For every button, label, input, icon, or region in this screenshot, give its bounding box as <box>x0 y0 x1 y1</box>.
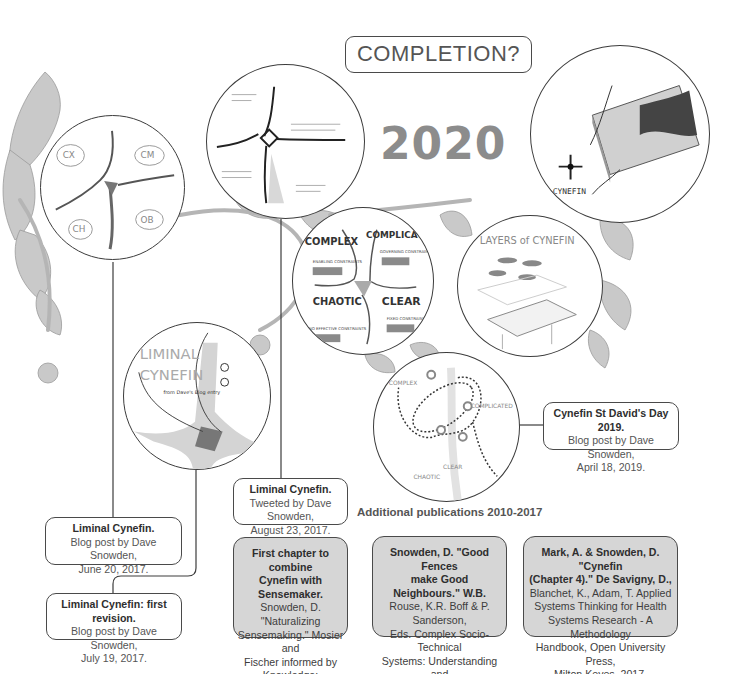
liminal-cynefin-sketch-circle: LIMINAL CYNEFIN from Dave's Blog entry <box>123 322 271 470</box>
year-2020-label: 2020 <box>380 118 490 169</box>
liminal-tweet-title: Liminal Cynefin. <box>237 483 344 497</box>
complex-label: COMPLEX <box>305 237 359 248</box>
layers-title: LAYERS of CYNEFIN <box>480 235 575 246</box>
publication-box-2010: First chapter to combine Cynefin with Se… <box>233 537 348 638</box>
liminal-word: LIMINAL <box>140 345 200 362</box>
cynefin-hand-sketch-circle <box>206 64 365 219</box>
svg-text:from Dave's Blog entry: from Dave's Blog entry <box>163 389 220 396</box>
cynefin-word: CYNEFIN <box>140 366 203 383</box>
cx-label: CX <box>63 150 75 160</box>
liminal-tweet-box: Liminal Cynefin. Tweeted by Dave Snowden… <box>233 478 348 525</box>
liminal-blog-box: Liminal Cynefin. Blog post by Dave Snowd… <box>45 517 182 565</box>
svg-text:GOVERNING CONSTRAINTS: GOVERNING CONSTRAINTS <box>380 249 433 254</box>
cynefin-dynamics-drawing: COMPLEX COMPLICATED CHAOTIC CLEAR <box>374 353 519 501</box>
layers-of-cynefin-drawing: LAYERS of CYNEFIN <box>458 216 602 356</box>
st-davids-day-box: Cynefin St David's Day 2019. Blog post b… <box>543 402 679 450</box>
svg-text:CLEAR: CLEAR <box>443 464 462 470</box>
svg-text:ENABLING CONSTRAINTS: ENABLING CONSTRAINTS <box>313 259 363 264</box>
svg-text:COMPLEX: COMPLEX <box>389 380 418 386</box>
complicated-label: COMPLICATED <box>366 230 433 240</box>
liminal-blog-title: Liminal Cynefin. <box>49 522 178 536</box>
cm-label: CM <box>141 150 155 160</box>
cynefin-domains-drawing: COMPLEX COMPLICATED CHAOTIC CLEAR ENABLI… <box>293 208 433 354</box>
liminal-revision-box: Liminal Cynefin: first revision. Blog po… <box>46 593 182 640</box>
clear-label: CLEAR <box>382 295 422 308</box>
svg-text:FIXED CONSTRAINTS: FIXED CONSTRAINTS <box>387 316 428 321</box>
liminal-cynefin-drawing: LIMINAL CYNEFIN from Dave's Blog entry <box>124 323 270 469</box>
svg-text:CHAOTIC: CHAOTIC <box>413 474 440 480</box>
svg-text:NO EFFECTIVE CONSTRAINTS: NO EFFECTIVE CONSTRAINTS <box>309 326 367 331</box>
cynefin-caption: CYNEFIN <box>553 187 587 196</box>
cynefin-domains-circle: COMPLEX COMPLICATED CHAOTIC CLEAR ENABLI… <box>292 207 434 355</box>
early-cynefin-sketch-circle: CX CM CH OB <box>40 115 185 260</box>
additional-publications-heading: Additional publications 2010-2017 <box>357 506 542 518</box>
layers-of-cynefin-circle: LAYERS of CYNEFIN <box>457 215 603 357</box>
cynefin-3d-model-drawing: CYNEFIN <box>531 46 709 222</box>
liminal-revision-title: Liminal Cynefin: first revision. <box>50 598 178 625</box>
svg-text:COMPLICATED: COMPLICATED <box>471 403 514 409</box>
ch-label: CH <box>73 224 86 234</box>
completion-label: COMPLETION? <box>345 36 532 73</box>
chaotic-label: CHAOTIC <box>313 296 362 307</box>
st-davids-day-title: Cynefin St David's Day 2019. <box>547 407 675 434</box>
publication-box-2012: Snowden, D. "Good Fences make Good Neigh… <box>372 536 507 637</box>
ob-label: OB <box>141 215 154 225</box>
cynefin-dynamics-circle: COMPLEX COMPLICATED CHAOTIC CLEAR <box>373 352 520 502</box>
hand-sketch-drawing <box>207 65 364 218</box>
publication-box-2017: Mark, A. & Snowden, D. "Cynefin (Chapter… <box>523 536 678 637</box>
early-sketch-drawing: CX CM CH OB <box>41 116 184 259</box>
cynefin-3d-model-circle: CYNEFIN <box>530 45 710 223</box>
